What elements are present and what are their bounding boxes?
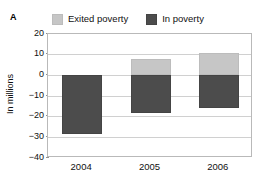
legend-swatch-in-poverty — [146, 14, 157, 25]
x-axis-tick-label: 2006 — [207, 161, 228, 172]
legend-item-in-poverty: In poverty — [146, 14, 204, 25]
bar-segment[interactable] — [131, 75, 171, 112]
y-axis-tick-label: 10 — [18, 49, 44, 58]
bar-group[interactable] — [62, 34, 102, 156]
y-axis-tick-label: −30 — [18, 132, 44, 141]
legend-item-exited-poverty: Exited poverty — [52, 14, 128, 25]
bar-group[interactable] — [131, 34, 171, 156]
legend-label-exited-poverty: Exited poverty — [68, 14, 128, 24]
bar-group[interactable] — [199, 34, 239, 156]
panel-letter: A — [10, 12, 17, 22]
plot-area — [47, 33, 252, 157]
bar-segment[interactable] — [62, 75, 102, 134]
legend-label-in-poverty: In poverty — [162, 14, 204, 24]
y-axis-tick-label: −40 — [18, 153, 44, 162]
bar-segment[interactable] — [131, 59, 171, 76]
y-axis-tick-labels: 20100−10−20−30−40 — [14, 33, 44, 157]
legend-swatch-exited-poverty — [52, 14, 63, 25]
y-axis-tick-label: −20 — [18, 111, 44, 120]
y-axis-tick-label: −10 — [18, 91, 44, 100]
x-axis-tick-labels: 200420052006 — [47, 161, 252, 175]
chart-figure: A Exited poverty In poverty In millions … — [0, 0, 267, 186]
bar-segment[interactable] — [199, 75, 239, 108]
chart-legend: Exited poverty In poverty — [52, 11, 257, 27]
y-axis-tick-label: 20 — [18, 29, 44, 38]
x-axis-tick-label: 2005 — [139, 161, 160, 172]
x-axis-tick-label: 2004 — [71, 161, 92, 172]
y-axis-tick-label: 0 — [18, 70, 44, 79]
bar-segment[interactable] — [199, 53, 239, 76]
